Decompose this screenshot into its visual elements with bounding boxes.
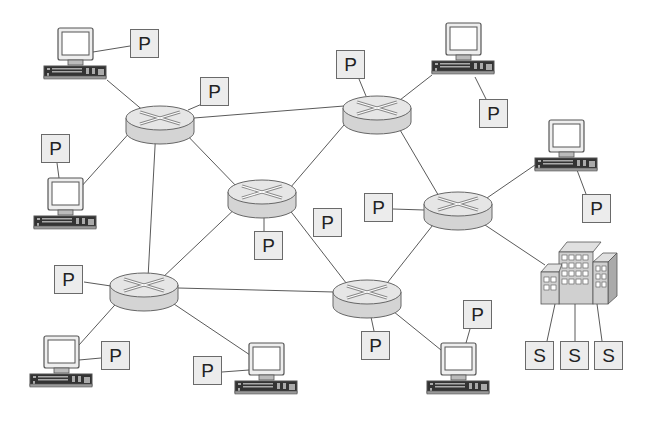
server-label: S: [525, 341, 554, 370]
peer-label: P: [479, 99, 508, 128]
router-R4: [424, 192, 492, 230]
computer-C7: [427, 343, 489, 394]
peer-label: P: [130, 29, 159, 58]
server-building-icon: [541, 242, 617, 304]
computer-C1: [44, 28, 106, 79]
computer-C2: [432, 23, 494, 74]
peer-label: P: [254, 231, 283, 260]
peer-label: P: [361, 331, 390, 360]
peer-label: P: [463, 300, 492, 329]
server-label: S: [560, 341, 589, 370]
peer-label: P: [101, 341, 130, 370]
router-R5: [110, 273, 178, 311]
computer-C3: [535, 120, 597, 171]
peer-label: P: [41, 134, 70, 163]
server-label: S: [594, 341, 623, 370]
computer-C4: [34, 178, 96, 229]
router-R2: [343, 96, 411, 134]
peer-label: P: [193, 356, 222, 385]
peer-label: P: [54, 265, 83, 294]
peer-label: P: [200, 77, 229, 106]
router-R3: [228, 180, 296, 218]
computer-C5: [30, 336, 92, 387]
router-R1: [126, 106, 194, 144]
peer-label: P: [313, 208, 342, 237]
peer-label: P: [364, 193, 393, 222]
peer-label: P: [582, 194, 611, 223]
peer-label: P: [336, 50, 365, 79]
router-R6: [333, 280, 401, 318]
